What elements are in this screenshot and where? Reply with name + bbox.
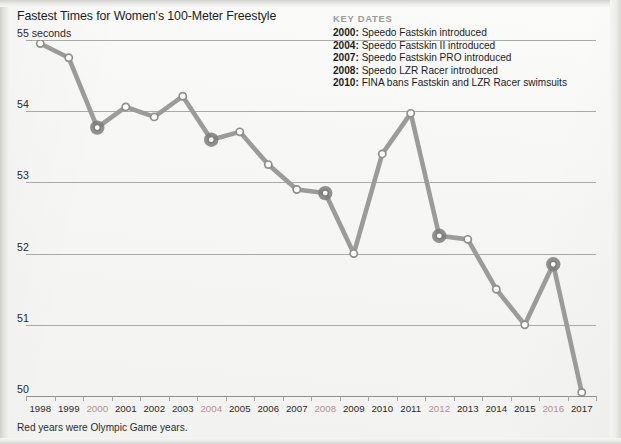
data-point[interactable] — [578, 389, 585, 396]
x-tick-label: 2012 — [428, 403, 450, 414]
x-tick — [169, 396, 170, 401]
data-point[interactable] — [179, 93, 186, 100]
data-point[interactable] — [236, 128, 243, 135]
x-tick — [112, 396, 113, 401]
line-chart-svg — [26, 40, 596, 396]
data-point[interactable] — [65, 54, 72, 61]
data-point[interactable] — [122, 103, 129, 110]
x-tick-label: 2003 — [172, 403, 194, 414]
x-tick-label: 2011 — [400, 403, 421, 414]
data-point[interactable] — [151, 113, 158, 120]
data-point-olympic[interactable] — [322, 190, 328, 196]
data-line — [40, 44, 582, 393]
x-tick-label: 2002 — [143, 403, 165, 414]
x-tick — [26, 396, 27, 401]
data-point[interactable] — [265, 161, 272, 168]
x-tick-label: 2004 — [200, 403, 222, 414]
data-point[interactable] — [293, 186, 300, 193]
x-tick — [511, 396, 512, 401]
data-point-olympic[interactable] — [94, 124, 100, 130]
x-tick-label: 1999 — [58, 403, 80, 414]
y-tick-label: 55 seconds — [17, 27, 71, 40]
x-tick — [311, 396, 312, 401]
x-tick — [368, 396, 369, 401]
data-point[interactable] — [379, 150, 386, 157]
x-tick — [254, 396, 255, 401]
x-tick-label: 2017 — [571, 403, 593, 414]
x-tick — [425, 396, 426, 401]
x-tick — [454, 396, 455, 401]
x-tick — [197, 396, 198, 401]
x-tick — [55, 396, 56, 401]
x-tick — [482, 396, 483, 401]
x-tick-label: 2014 — [485, 403, 507, 414]
key-date-row: 2000: Speedo Fastskin introduced — [333, 27, 613, 40]
chart-title: Fastest Times for Women's 100-Meter Free… — [17, 9, 276, 23]
x-tick-label: 2013 — [457, 403, 479, 414]
data-point-olympic[interactable] — [550, 261, 556, 267]
chart-page: Fastest Times for Women's 100-Meter Free… — [0, 0, 621, 444]
x-tick-label: 2007 — [286, 403, 308, 414]
data-point[interactable] — [493, 286, 500, 293]
x-tick-label: 2005 — [229, 403, 251, 414]
data-point[interactable] — [521, 321, 528, 328]
x-tick-label: 2000 — [86, 403, 108, 414]
x-tick — [539, 396, 540, 401]
x-tick-label: 1998 — [29, 403, 51, 414]
x-tick-label: 2001 — [115, 403, 137, 414]
data-point[interactable] — [37, 40, 44, 47]
x-tick-label: 2006 — [257, 403, 279, 414]
x-tick — [226, 396, 227, 401]
x-tick — [596, 396, 597, 401]
data-point-olympic[interactable] — [436, 233, 442, 239]
x-tick-label: 2009 — [343, 403, 365, 414]
x-tick — [340, 396, 341, 401]
data-point[interactable] — [464, 236, 471, 243]
data-point[interactable] — [407, 110, 414, 117]
x-tick-label: 2010 — [371, 403, 393, 414]
x-tick-label: 2016 — [542, 403, 564, 414]
data-point-olympic[interactable] — [208, 137, 214, 143]
key-dates-heading: KEY DATES — [333, 13, 613, 24]
paper-edge-left — [0, 0, 9, 444]
x-tick — [140, 396, 141, 401]
data-point[interactable] — [350, 250, 357, 257]
x-tick — [283, 396, 284, 401]
x-tick-label: 2008 — [314, 403, 336, 414]
x-tick — [568, 396, 569, 401]
chart-footnote: Red years were Olympic Game years. — [17, 422, 188, 433]
key-date-year: 2000: — [333, 27, 359, 38]
x-tick — [397, 396, 398, 401]
x-tick — [83, 396, 84, 401]
paper-edge-bottom — [0, 438, 621, 444]
paper-edge-top — [0, 0, 621, 7]
x-tick-label: 2015 — [514, 403, 536, 414]
key-date-text: Speedo Fastskin introduced — [359, 27, 487, 38]
